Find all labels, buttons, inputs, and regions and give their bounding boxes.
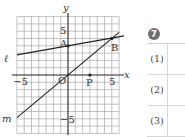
answer-row-2: (2) [147, 75, 185, 106]
coordinate-graph: y x O −5 5 5 −5 A B P ℓ m [0, 0, 140, 137]
x-axis-label: x [124, 69, 130, 80]
tick-x-neg5: −5 [13, 76, 28, 87]
answer-table: (1) (2) (3) [147, 43, 185, 137]
point-a-label: A [59, 38, 68, 49]
answer-cell-2[interactable] [168, 75, 185, 105]
problem-number-badge: 7 [148, 28, 160, 40]
row-label: (2) [147, 75, 168, 105]
y-axis-label: y [62, 2, 69, 13]
answer-cell-1[interactable] [168, 44, 185, 74]
row-label: (1) [147, 44, 168, 74]
answer-cell-3[interactable] [168, 106, 185, 136]
answer-row-1: (1) [147, 44, 185, 75]
point-b [110, 37, 113, 40]
tick-x-pos5: 5 [109, 76, 115, 87]
tick-y-neg5: −5 [60, 114, 75, 125]
line-m-label: m [2, 113, 11, 124]
answer-row-3: (3) [147, 106, 185, 137]
answer-panel: 7 (1) (2) (3) [147, 28, 185, 137]
tick-y-pos5: 5 [60, 25, 66, 36]
point-b-label: B [111, 42, 118, 53]
point-p-label: P [86, 77, 93, 88]
row-label: (3) [147, 106, 168, 136]
line-l-label: ℓ [4, 53, 8, 64]
origin-label: O [58, 75, 66, 86]
